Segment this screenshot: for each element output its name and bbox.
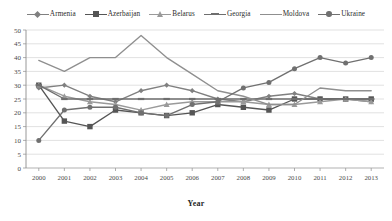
data-point: [240, 98, 246, 100]
legend-swatch-moldova-icon: [260, 10, 282, 19]
data-point: [36, 138, 41, 143]
legend-label: Azerbaijan: [108, 10, 141, 18]
y-tick-label: 40: [14, 54, 22, 62]
legend-item-georgia[interactable]: Georgia: [204, 10, 251, 19]
y-tick-label: 0: [18, 165, 22, 173]
y-tick-label: 30: [14, 82, 22, 90]
data-point: [87, 124, 92, 129]
x-tick-label: 2007: [211, 174, 225, 181]
y-tick-label: 20: [14, 109, 22, 117]
x-tick-label: 2006: [185, 174, 199, 181]
legend-label: Armenia: [50, 10, 76, 18]
x-axis-title: Year: [0, 199, 392, 208]
data-point: [164, 113, 169, 118]
data-point: [36, 84, 42, 86]
x-tick-label: 2012: [339, 174, 353, 181]
line-chart: ArmeniaAzerbaijanBelarusGeorgiaMoldovaUk…: [0, 0, 392, 221]
legend-item-azerbaijan[interactable]: Azerbaijan: [85, 10, 141, 19]
x-tick-label: 2001: [58, 174, 72, 181]
data-point: [113, 105, 118, 110]
x-tick-label: 2004: [134, 174, 148, 181]
x-tick-label: 2002: [83, 174, 97, 181]
data-point: [189, 98, 195, 100]
data-point: [61, 98, 67, 100]
series-azerbaijan: [36, 83, 374, 130]
legend-item-belarus[interactable]: Belarus: [149, 10, 195, 19]
data-point: [87, 98, 93, 100]
legend-item-moldova[interactable]: Moldova: [260, 10, 310, 19]
y-tick-label: 10: [14, 137, 22, 145]
x-tick-label: 2009: [262, 174, 276, 181]
data-point: [62, 83, 67, 88]
data-point: [291, 98, 297, 100]
data-point: [292, 91, 297, 96]
x-tick-label: 2013: [364, 174, 378, 181]
data-point: [163, 98, 169, 100]
plot-svg: 0510152025303540455020002001200220032004…: [0, 24, 392, 196]
data-point: [215, 99, 220, 104]
legend-item-ukraine[interactable]: Ukraine: [318, 10, 365, 19]
data-point: [190, 88, 195, 93]
data-point: [241, 105, 246, 110]
x-tick-label: 2008: [237, 174, 251, 181]
data-point: [266, 98, 272, 100]
data-point: [292, 66, 297, 71]
legend-swatch-armenia-icon: [27, 10, 49, 19]
chart-legend: ArmeniaAzerbaijanBelarusGeorgiaMoldovaUk…: [0, 4, 392, 24]
legend-swatch-belarus-icon: [149, 10, 171, 19]
y-tick-label: 50: [14, 27, 22, 35]
legend-swatch-georgia-icon: [204, 10, 226, 19]
data-point: [266, 107, 271, 112]
y-tick-label: 15: [14, 123, 22, 131]
data-point: [62, 118, 67, 123]
data-point: [62, 108, 67, 113]
legend-swatch-azerbaijan-icon: [85, 10, 107, 19]
data-point: [369, 55, 374, 60]
x-tick-label: 2005: [160, 174, 174, 181]
y-tick-label: 25: [14, 96, 22, 104]
y-tick-label: 45: [14, 40, 22, 48]
legend-label: Belarus: [172, 10, 195, 18]
data-point: [139, 110, 144, 115]
data-point: [190, 102, 195, 107]
y-tick-label: 35: [14, 68, 22, 76]
x-tick-label: 2010: [288, 174, 302, 181]
legend-label: Ukraine: [341, 10, 365, 18]
y-tick-label: 5: [18, 151, 22, 159]
legend-item-armenia[interactable]: Armenia: [27, 10, 76, 19]
legend-label: Georgia: [227, 10, 251, 18]
data-point: [266, 80, 271, 85]
data-point: [241, 85, 246, 90]
x-tick-label: 2000: [32, 174, 46, 181]
data-point: [317, 98, 323, 100]
x-tick-label: 2011: [313, 174, 326, 181]
data-point: [87, 105, 92, 110]
plot-area: 0510152025303540455020002001200220032004…: [0, 24, 392, 196]
data-point: [138, 98, 144, 100]
data-point: [342, 98, 348, 100]
data-point: [190, 110, 195, 115]
data-point: [368, 98, 374, 100]
data-point: [138, 88, 143, 93]
x-tick-label: 2003: [109, 174, 123, 181]
data-point: [112, 98, 118, 100]
series-georgia: [36, 84, 375, 100]
legend-label: Moldova: [283, 10, 310, 18]
data-point: [318, 55, 323, 60]
legend-swatch-ukraine-icon: [318, 10, 340, 19]
data-point: [164, 83, 169, 88]
data-point: [343, 61, 348, 66]
